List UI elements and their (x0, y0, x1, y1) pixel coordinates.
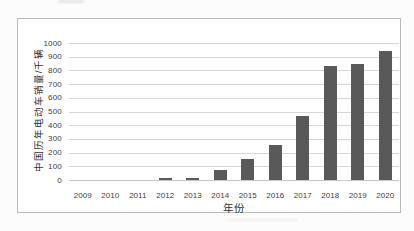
gridline (69, 84, 399, 85)
scan-artifact-bottom (228, 219, 298, 221)
plot-area (69, 43, 399, 181)
gridline (69, 112, 399, 113)
x-axis-tick-label: 2019 (344, 191, 372, 200)
gridline (69, 139, 399, 140)
y-axis-tick-label: 600 (32, 93, 62, 102)
bar-2013 (186, 178, 199, 180)
bar-2017 (296, 116, 309, 180)
bar-2019 (351, 64, 364, 180)
gridline (69, 70, 399, 71)
scan-artifact-top (58, 0, 84, 3)
gridline (69, 166, 399, 167)
y-axis-tick-label: 500 (32, 107, 62, 116)
gridline (69, 98, 399, 99)
bar-2016 (269, 145, 282, 180)
x-axis-tick-label: 2015 (234, 191, 262, 200)
bar-2018 (324, 66, 337, 180)
bar-2015 (241, 159, 254, 180)
bar-2014 (214, 170, 227, 180)
gridline (69, 43, 399, 44)
x-axis-tick-label: 2013 (179, 191, 207, 200)
x-axis-tick-label: 2016 (261, 191, 289, 200)
y-axis-tick-label: 0 (32, 176, 62, 185)
x-axis-title: 年份 (69, 200, 399, 215)
chart-frame: 中国历年电动车销量/千辆 年份 010020030040050060070080… (17, 18, 401, 213)
y-axis-tick-label: 1000 (32, 39, 62, 48)
y-axis-tick-label: 400 (32, 121, 62, 130)
x-axis-tick-label: 2018 (316, 191, 344, 200)
y-axis-tick-label: 300 (32, 134, 62, 143)
bar-2012 (159, 178, 172, 180)
gridline (69, 125, 399, 126)
x-axis-tick-label: 2017 (289, 191, 317, 200)
x-axis-tick-label: 2012 (151, 191, 179, 200)
bar-2020 (379, 51, 392, 180)
y-axis-tick-label: 700 (32, 80, 62, 89)
x-axis-tick-label: 2011 (124, 191, 152, 200)
x-axis-tick-label: 2014 (206, 191, 234, 200)
x-axis-tick-label: 2010 (96, 191, 124, 200)
y-axis-tick-label: 100 (32, 162, 62, 171)
x-axis-tick-label: 2009 (69, 191, 97, 200)
y-axis-tick-label: 900 (32, 52, 62, 61)
y-axis-tick-label: 800 (32, 66, 62, 75)
gridline (69, 153, 399, 154)
y-axis-tick-label: 200 (32, 148, 62, 157)
x-axis-tick-label: 2020 (371, 191, 399, 200)
gridline (69, 57, 399, 58)
